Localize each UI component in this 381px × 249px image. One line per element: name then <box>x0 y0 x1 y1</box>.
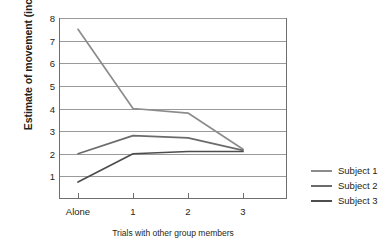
line-chart-figure: Estimate of movement (inches) 12345678 A… <box>0 0 381 249</box>
x-axis-tick-label: 2 <box>185 206 190 217</box>
y-axis-tick-label: 4 <box>50 103 55 114</box>
x-axis-tick-label: Alone <box>66 206 90 217</box>
series-line <box>78 151 243 182</box>
series-line <box>78 29 243 149</box>
legend-item-label: Subject 2 <box>338 180 378 191</box>
legend-item-label: Subject 1 <box>338 165 378 176</box>
series-lines-group <box>59 18 287 199</box>
legend-item[interactable]: Subject 1 <box>311 163 378 178</box>
legend-item[interactable]: Subject 2 <box>311 178 378 193</box>
legend-line-swatch <box>311 170 332 172</box>
legend-line-swatch <box>311 185 332 187</box>
y-axis-tick-label: 8 <box>50 13 55 24</box>
y-axis-title: Estimate of movement (inches) <box>22 0 34 144</box>
x-axis-tick-label: 1 <box>130 206 135 217</box>
y-axis-tick-label: 7 <box>50 35 55 46</box>
y-axis-tick-label: 1 <box>50 171 55 182</box>
y-axis-tick-label: 3 <box>50 126 55 137</box>
x-axis-tick-label: 3 <box>240 206 245 217</box>
x-axis-title: Trials with other group members <box>59 228 287 238</box>
legend: Subject 1Subject 2Subject 3 <box>311 163 378 208</box>
y-axis-tick-label: 5 <box>50 80 55 91</box>
legend-item-label: Subject 3 <box>338 195 378 206</box>
plot-area: 12345678 Alone123 <box>59 18 287 199</box>
legend-line-swatch <box>311 200 332 202</box>
legend-item[interactable]: Subject 3 <box>311 193 378 208</box>
y-axis-tick-label: 6 <box>50 58 55 69</box>
y-axis-tick-label: 2 <box>50 148 55 159</box>
